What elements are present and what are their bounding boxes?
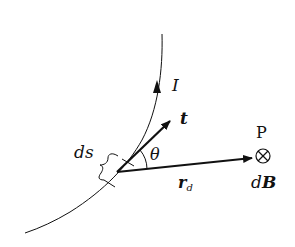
ds-label: ds	[74, 142, 94, 162]
point-label: P	[256, 123, 267, 142]
tangent-vector	[117, 121, 170, 172]
angle-arc	[140, 150, 147, 169]
field-into-page-icon	[256, 149, 270, 163]
tangent-label: t	[180, 108, 188, 128]
field-label: dB	[251, 172, 276, 192]
biot-savart-diagram: I ds t rd θ P dB	[0, 0, 295, 247]
angle-label: θ	[150, 145, 160, 164]
wire-curve	[25, 34, 162, 233]
radius-vector	[117, 158, 252, 172]
current-label: I	[171, 75, 179, 95]
radius-label: rd	[178, 173, 193, 193]
